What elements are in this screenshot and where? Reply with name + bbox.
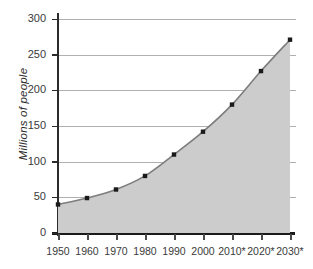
data-point-marker (56, 202, 60, 206)
data-point-marker (230, 102, 234, 106)
data-point-marker (288, 37, 292, 41)
area-fill (58, 40, 290, 233)
data-point-marker (143, 174, 147, 178)
data-point-marker (201, 130, 205, 134)
data-point-marker (172, 152, 176, 156)
data-point-marker (114, 187, 118, 191)
data-series-layer (0, 0, 313, 269)
chart-container: Millions of people 050100150200250300 19… (0, 0, 313, 269)
data-point-marker (259, 69, 263, 73)
data-point-marker (85, 196, 89, 200)
